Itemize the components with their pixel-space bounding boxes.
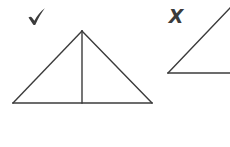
- cross-icon: X: [166, 7, 186, 29]
- check-icon-path: [29, 8, 45, 25]
- triangle-right-side: [82, 31, 152, 103]
- check-icon-glyph: [26, 6, 48, 28]
- check-icon: [26, 6, 48, 28]
- diagram-canvas: X: [0, 0, 230, 147]
- triangle-left-side: [13, 31, 82, 103]
- triangle-with-altitude-group: [13, 31, 152, 103]
